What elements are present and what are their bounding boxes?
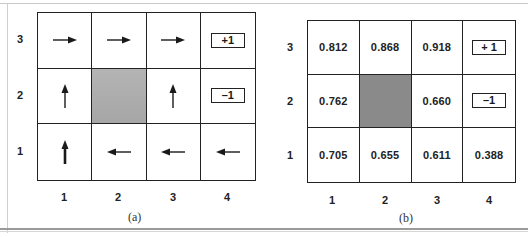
utility-cell: 0.388	[463, 128, 515, 182]
utility-grid: 0.8120.8680.918+ 10.7620.660–10.7050.655…	[307, 20, 516, 183]
col-label: 2	[382, 194, 388, 206]
utility-value: 0.388	[475, 149, 504, 161]
utility-value: 0.655	[371, 149, 400, 161]
col-label: 3	[434, 194, 440, 206]
terminal-cell: + 1	[463, 21, 515, 75]
utility-cell: 0.762	[308, 75, 360, 129]
reward-badge: –1	[472, 93, 506, 108]
panel-b-utilities: 3 2 1 0.8120.8680.918+ 10.7620.660–10.70…	[0, 0, 528, 237]
utility-value: 0.762	[319, 95, 348, 107]
utility-value: 0.918	[423, 41, 452, 53]
utility-cell: 0.611	[412, 128, 464, 182]
utility-value: 0.611	[423, 149, 451, 161]
utility-cell: 0.868	[360, 21, 412, 75]
row-label: 2	[287, 95, 293, 107]
reward-badge: + 1	[472, 40, 506, 55]
row-label: 1	[287, 149, 293, 161]
col-label: 1	[329, 194, 335, 206]
utility-cell: 0.655	[360, 128, 412, 182]
utility-cell: 0.812	[308, 21, 360, 75]
panel-b-caption: (b)	[399, 211, 413, 226]
wall-cell	[360, 75, 412, 129]
utility-cell: 0.918	[412, 21, 464, 75]
utility-value: 0.705	[319, 149, 348, 161]
row-label: 3	[287, 41, 293, 53]
col-label: 4	[486, 194, 492, 206]
utility-value: 0.868	[371, 41, 400, 53]
utility-value: 0.660	[423, 95, 452, 107]
utility-value: 0.812	[319, 41, 348, 53]
utility-cell: 0.705	[308, 128, 360, 182]
terminal-cell: –1	[463, 75, 515, 129]
utility-cell: 0.660	[412, 75, 464, 129]
